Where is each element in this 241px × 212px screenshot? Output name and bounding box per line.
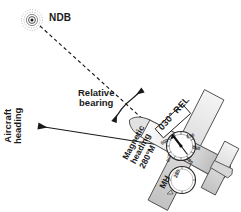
relative-bearing-arc-arrow	[114, 98, 133, 122]
relative-bearing-label: Relative bearing	[78, 88, 114, 109]
adf-relative-bearing-figure: NDB Relative bearing Aircraft heading Ma…	[0, 0, 241, 212]
adf-rose-tick-060: 060	[192, 145, 200, 151]
relative-bearing-arc-tail	[133, 90, 143, 98]
ndb-label: NDB	[49, 13, 71, 24]
ndb-station-icon	[22, 10, 43, 31]
diagram-canvas	[0, 0, 241, 212]
aircraft-heading-label: Aircraft heading	[3, 108, 24, 144]
